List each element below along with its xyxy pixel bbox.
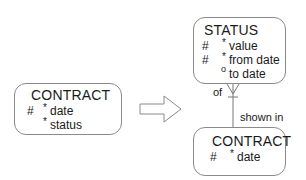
diagram-graphics xyxy=(0,0,306,180)
hollow-right-arrow-icon xyxy=(140,96,181,122)
